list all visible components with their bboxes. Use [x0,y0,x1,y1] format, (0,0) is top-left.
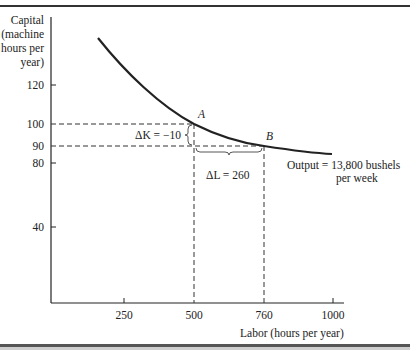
output-annotation-line-2: per week [336,171,378,185]
y-label-line-1: Capital [0,13,44,27]
x-tick-label-250: 250 [104,308,144,322]
delta-k-brace [185,125,192,145]
x-tick-label-500: 500 [174,308,214,322]
delta-k-annotation: ΔK = −10 [135,128,181,142]
dashed-guides [51,124,264,303]
delta-l-brace [196,148,262,155]
point-a-label: A [198,107,205,121]
point-b-label: B [266,129,273,143]
y-label-line-3: hours per [0,41,44,55]
y-tick-label-80: 80 [14,156,44,170]
y-tick-label-120: 120 [14,78,44,92]
y-label-line-2: (machine [0,27,44,41]
y-tick-label-100: 100 [14,117,44,131]
y-tick-label-40: 40 [14,220,44,234]
delta-l-annotation: ΔL = 260 [206,168,249,182]
x-tick-label-760: 760 [244,308,284,322]
y-axis-label: Capital (machine hours per year) [0,13,44,69]
isoquant-curve [98,38,332,154]
x-axis-label: Labor (hours per year) [240,326,344,340]
x-tick-label-1000: 1000 [313,308,353,322]
y-label-line-4: year) [0,55,44,69]
output-annotation-line-1: Output = 13,800 bushels [287,158,400,172]
y-tick-label-90: 90 [14,139,44,153]
